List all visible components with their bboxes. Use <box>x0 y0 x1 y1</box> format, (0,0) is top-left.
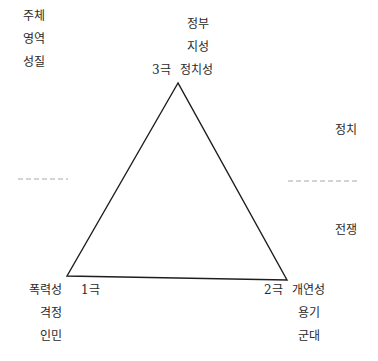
top-pole-nature: 정치성 <box>180 63 213 86</box>
legend-subject: 주체 <box>23 9 45 32</box>
bottom-left-pole-number: 1극 <box>81 283 100 297</box>
legend-column: 주체 영역 성질 <box>23 9 45 78</box>
bottom-right-pole-labels: 개연성 용기 군대 <box>292 283 325 352</box>
bottom-right-pole-number: 2극 <box>264 283 283 297</box>
top-pole-domain: 지성 <box>180 40 213 63</box>
top-pole-subject: 정부 <box>180 17 213 40</box>
bottom-left-pole-labels: 폭력성 격정 인민 <box>20 283 62 352</box>
bottom-right-pole-domain: 용기 <box>292 306 325 329</box>
top-pole-number: 3극 <box>152 63 171 77</box>
zone-label-war: 전쟁 <box>335 223 357 237</box>
zone-label-politics: 정치 <box>335 123 357 137</box>
bottom-left-pole-subject: 인민 <box>20 329 62 352</box>
bottom-left-pole-domain: 격정 <box>20 306 62 329</box>
legend-domain: 영역 <box>23 32 45 55</box>
trinity-diagram: 주체 영역 성질 정부 지성 정치성 3극 1극 폭력성 격정 인민 2극 개연… <box>0 0 378 361</box>
triangle-shape <box>67 83 287 280</box>
bottom-right-pole-nature: 개연성 <box>292 283 325 306</box>
bottom-right-pole-subject: 군대 <box>292 329 325 352</box>
legend-nature: 성질 <box>23 55 45 78</box>
top-pole-labels: 정부 지성 정치성 <box>180 17 213 86</box>
bottom-left-pole-nature: 폭력성 <box>20 283 62 306</box>
